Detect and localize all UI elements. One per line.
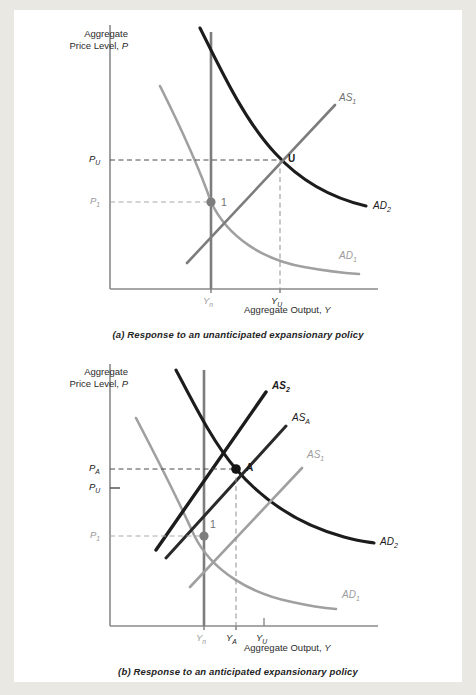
panel-a-caption: (a) Response to an unanticipated expansi… [14, 329, 462, 340]
panel-a: Aggregate Price Level, P Aggregate Outpu… [14, 10, 462, 350]
panel-b-caption: (b) Response to an anticipated expansion… [14, 666, 462, 677]
equilibrium-point-1-marker [206, 197, 215, 206]
panel-a-curve-label-ad1: AD1 [339, 250, 357, 263]
x-axis-title-text: Aggregate Output, [244, 304, 322, 315]
curve-label-ad1-sub: 1 [356, 595, 360, 602]
panel-b-equilibrium-label-a: A [246, 462, 253, 473]
panel-b-xtick-yn: Yn [196, 632, 206, 645]
curve-label-ad2-base: AD [373, 200, 387, 211]
y-axis-title-line1: Aggregate [84, 366, 128, 377]
curve-label-ad2-sub: 2 [394, 542, 398, 549]
panel-a-xtick-yu: YU [271, 295, 282, 308]
curve-label-ad2-base: AD [380, 536, 394, 547]
curve-label-as2-sub: 2 [286, 386, 290, 393]
curve-asa [166, 426, 286, 558]
panel-b-curve-label-as2: AS2 [272, 380, 290, 393]
curve-label-asa-base: AS [292, 412, 305, 423]
curve-as1 [190, 468, 302, 587]
x-axis-title-var: Y [324, 304, 330, 315]
panel-b-ytick-pa: PA [89, 462, 100, 475]
panel-b-xtick-ya: YA [226, 632, 237, 645]
y-axis-title-var: P [122, 378, 128, 389]
curve-label-as1-sub: 1 [352, 98, 356, 105]
curve-label-ad1-sub: 1 [353, 256, 357, 263]
curve-label-ad1-base: AD [339, 250, 353, 261]
y-axis-title-line2: Price Level, [69, 40, 119, 51]
xtick-ya-sub: A [232, 638, 237, 645]
y-axis-title-line1: Aggregate [84, 28, 128, 39]
panel-a-plot [14, 10, 462, 350]
ytick-p1-sub: 1 [96, 201, 100, 208]
curve-label-asa-sub: A [305, 418, 310, 425]
panel-b: Aggregate Price Level, P Aggregate Outpu… [14, 350, 462, 682]
curve-label-ad2-sub: 2 [387, 206, 391, 213]
curve-label-as1-sub: 1 [320, 455, 324, 462]
curve-ad2 [200, 28, 366, 206]
curve-ad2 [176, 370, 374, 543]
ytick-pu-sub: U [95, 487, 100, 494]
ytick-p1-sub: 1 [96, 535, 100, 542]
xtick-yn-sub: n [202, 638, 206, 645]
ytick-pu-sub: U [95, 159, 100, 166]
panel-a-y-axis-title: Aggregate Price Level, P [40, 28, 128, 51]
y-axis-title-var: P [122, 40, 128, 51]
curve-label-ad1-base: AD [342, 589, 356, 600]
panel-a-equilibrium-label-u: U [288, 153, 295, 164]
page-background: Aggregate Price Level, P Aggregate Outpu… [0, 0, 476, 695]
curve-label-as1-base: AS [339, 92, 352, 103]
figure-paper: Aggregate Price Level, P Aggregate Outpu… [14, 10, 462, 682]
ytick-pa-sub: A [95, 468, 100, 475]
panel-a-curve-label-as1: AS1 [339, 92, 356, 105]
panel-a-ytick-p1: P1 [90, 195, 100, 208]
panel-a-ytick-pu: PU [89, 153, 100, 166]
panel-b-curve-label-ad1: AD1 [342, 589, 360, 602]
equilibrium-point-1-marker [199, 531, 208, 540]
panel-b-equilibrium-label-1: 1 [210, 518, 216, 530]
panel-b-ytick-pu: PU [89, 481, 100, 494]
curve-label-as2-base: AS [272, 380, 286, 391]
panel-a-xtick-yn: Yn [203, 295, 213, 308]
xtick-yu-sub: U [277, 301, 282, 308]
panel-a-curve-label-ad2: AD2 [373, 200, 391, 213]
panel-b-curve-label-asa: ASA [292, 412, 310, 425]
x-axis-title-var: Y [324, 642, 330, 653]
xtick-yu-sub: U [262, 638, 267, 645]
panel-b-curve-label-ad2: AD2 [380, 536, 398, 549]
panel-b-axes [110, 364, 378, 626]
y-axis-title-line2: Price Level, [69, 378, 119, 389]
panel-b-ytick-p1: P1 [90, 529, 100, 542]
panel-b-xtick-yu: YU [256, 632, 267, 645]
xtick-yn-sub: n [209, 301, 213, 308]
panel-a-x-axis-title: Aggregate Output, Y [244, 304, 331, 316]
panel-b-curve-label-as1: AS1 [307, 449, 324, 462]
equilibrium-point-a-marker [231, 464, 241, 474]
panel-a-axes [110, 25, 378, 289]
panel-b-plot [14, 350, 462, 682]
curve-label-as1-base: AS [307, 449, 320, 460]
panel-b-y-axis-title: Aggregate Price Level, P [40, 366, 128, 389]
panel-a-equilibrium-label-1: 1 [221, 196, 227, 208]
curve-ad1 [160, 86, 359, 274]
